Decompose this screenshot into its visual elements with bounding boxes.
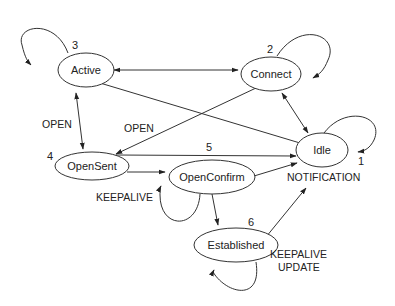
- node-number: 1: [358, 155, 364, 167]
- node-openconfirm: OpenConfirm 5: [169, 141, 255, 194]
- node-label: OpenSent: [67, 160, 117, 172]
- node-number: 3: [72, 39, 78, 51]
- node-label: Established: [208, 239, 265, 251]
- edge-active-idle: [100, 83, 300, 143]
- node-connect: Connect 2: [241, 43, 301, 91]
- node-number: 5: [206, 141, 212, 153]
- node-number: 4: [47, 150, 53, 162]
- edge-active-opensent: [76, 93, 83, 149]
- bgp-state-diagram: Active 3 Connect 2 Idle 1 OpenSent 4 Ope…: [0, 0, 395, 306]
- edge-opensent-idle: [116, 155, 296, 156]
- node-number: 6: [248, 216, 254, 228]
- node-label: Idle: [313, 144, 331, 156]
- edge-openconfirm-established: [212, 194, 218, 225]
- node-established: Established 6: [194, 216, 278, 262]
- node-label: Active: [71, 64, 101, 76]
- node-label: Connect: [251, 68, 292, 80]
- edge-label-notification: NOTIFICATION: [287, 171, 360, 183]
- edge-label-active-opensent: OPEN: [42, 118, 72, 130]
- edge-label-established-update: UPDATE: [278, 261, 320, 273]
- edge-established-idle: [266, 188, 306, 237]
- edge-connect-opensent: [116, 88, 256, 154]
- edge-label-established-keepalive: KEEPALIVE: [270, 248, 327, 260]
- node-label: OpenConfirm: [179, 171, 244, 183]
- node-active: Active 3: [58, 39, 114, 87]
- edge-label-openconfirm-keepalive: KEEPALIVE: [96, 191, 153, 203]
- node-number: 2: [267, 43, 273, 55]
- node-opensent: OpenSent 4: [47, 150, 129, 180]
- edge-connect-idle: [282, 93, 308, 133]
- edge-established-self-loop: [213, 262, 256, 290]
- edge-label-connect-opensent: OPEN: [124, 122, 154, 134]
- edge-active-self-loop: [21, 28, 68, 65]
- node-idle: Idle 1: [296, 133, 364, 167]
